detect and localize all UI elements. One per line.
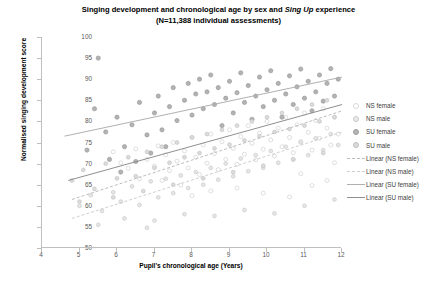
circle-marker-icon <box>353 129 359 135</box>
scatter-point <box>111 150 115 154</box>
legend-item[interactable]: Linear (SU female) <box>346 178 437 191</box>
scatter-point <box>231 146 235 150</box>
scatter-point <box>119 161 123 165</box>
scatter-point <box>265 119 269 123</box>
plot-area <box>41 37 341 248</box>
legend-line-icon <box>346 184 366 185</box>
legend-marker-icon <box>346 142 366 148</box>
legend-item-label: Linear (NS female) <box>366 155 419 162</box>
scatter-point <box>149 151 153 155</box>
scatter-point <box>265 88 269 92</box>
scatter-point <box>239 135 243 139</box>
scatter-point <box>220 124 224 128</box>
legend-item[interactable]: NS female <box>346 99 437 112</box>
scatter-point <box>325 126 329 130</box>
scatter-point <box>171 86 175 90</box>
scatter-point <box>288 195 292 199</box>
scatter-point <box>85 148 89 152</box>
scatter-point <box>310 103 314 107</box>
scatter-point <box>205 90 209 94</box>
scatter-point <box>183 149 187 153</box>
scatter-point <box>235 91 239 95</box>
legend-marker-icon <box>346 103 366 109</box>
scatter-point <box>269 69 273 73</box>
scatter-point <box>329 67 333 71</box>
x-axis-tick-mark <box>41 248 42 252</box>
scatter-point <box>231 170 235 174</box>
scatter-point <box>261 147 265 151</box>
scatter-point <box>186 81 190 85</box>
legend-item-label: NS male <box>366 115 390 122</box>
scatter-point <box>310 184 314 188</box>
scatter-point <box>310 148 314 152</box>
scatter-point <box>269 138 273 142</box>
scatter-point <box>235 186 239 190</box>
legend-item-label: Linear (SU female) <box>366 181 419 188</box>
scatter-point <box>205 161 209 165</box>
scatter-point <box>333 198 337 202</box>
legend-item-label: SU female <box>366 128 395 135</box>
scatter-point <box>183 212 187 216</box>
circle-marker-icon <box>353 103 359 109</box>
scatter-point <box>284 145 288 149</box>
line-sample-icon <box>347 197 365 198</box>
scatter-point <box>149 179 153 183</box>
scatter-point <box>314 90 318 94</box>
scatter-point <box>190 136 194 140</box>
scatter-point <box>104 162 108 166</box>
scatter-point <box>243 138 247 142</box>
scatter-point <box>246 169 250 173</box>
scatter-point <box>194 170 198 174</box>
scatter-point <box>209 73 213 77</box>
legend-item[interactable]: SU male <box>346 139 437 152</box>
scatter-point <box>126 155 130 159</box>
scatter-point <box>179 174 183 178</box>
scatter-point <box>198 151 202 155</box>
scatter-point <box>205 132 209 136</box>
scatter-point <box>96 223 100 227</box>
legend-item-label: NS female <box>366 102 395 109</box>
x-axis-tick-label: 5 <box>67 251 91 258</box>
x-axis-tick-label: 9 <box>217 251 241 258</box>
line-sample-icon <box>347 171 365 172</box>
legend-item[interactable]: SU female <box>346 125 437 138</box>
scatter-point <box>126 166 130 170</box>
circle-marker-icon <box>353 116 359 122</box>
scatter-point <box>122 145 126 149</box>
scatter-point <box>273 154 277 158</box>
scatter-point <box>224 96 228 100</box>
scatter-point <box>145 226 149 230</box>
scatter-point <box>306 130 310 134</box>
scatter-point <box>194 92 198 96</box>
chart-title: Singing development and chronological ag… <box>0 4 437 26</box>
scatter-point <box>134 174 138 178</box>
scatter-point <box>167 105 171 109</box>
scatter-point <box>288 135 292 139</box>
scatter-point <box>130 184 134 188</box>
scatter-point <box>78 204 82 208</box>
scatter-point <box>303 204 307 208</box>
scatter-point <box>276 81 280 85</box>
scatter-point <box>272 98 276 102</box>
scatter-point <box>111 195 115 199</box>
plot-canvas <box>42 37 342 248</box>
legend-item[interactable]: Linear (NS male) <box>346 165 437 178</box>
scatter-point <box>93 187 97 191</box>
scatter-point <box>299 172 303 176</box>
scatter-point <box>228 128 232 132</box>
scatter-point <box>325 178 329 182</box>
legend-item[interactable]: Linear (SU male) <box>346 191 437 204</box>
chart-figure: Singing development and chronological ag… <box>0 0 437 281</box>
scatter-point <box>295 107 299 111</box>
scatter-point <box>213 147 217 151</box>
legend-item[interactable]: Linear (NS female) <box>346 152 437 165</box>
scatter-point <box>321 99 325 103</box>
scatter-point <box>329 143 333 147</box>
scatter-point <box>317 73 321 77</box>
scatter-point <box>227 79 231 83</box>
scatter-point <box>332 94 336 98</box>
legend-item[interactable]: NS male <box>346 112 437 125</box>
x-axis-tick-mark <box>191 248 192 252</box>
scatter-point <box>130 123 134 127</box>
trendline <box>72 111 342 200</box>
